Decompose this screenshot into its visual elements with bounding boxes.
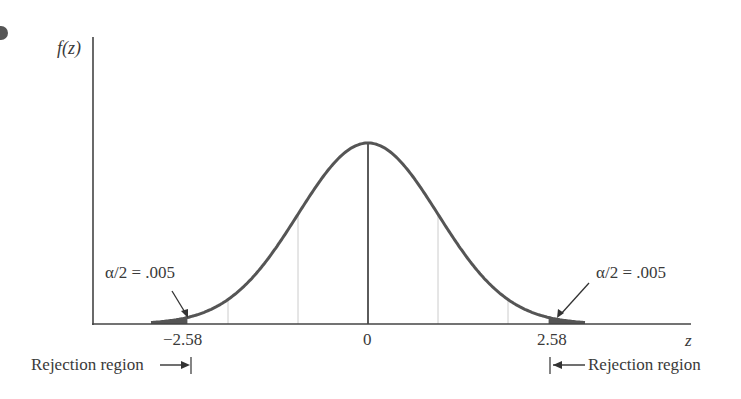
y-axis-label: f(z) [57, 38, 81, 59]
tick-label-neg-2-58: −2.58 [163, 330, 202, 350]
arrowhead-left-annotation [181, 309, 188, 318]
rejection-region-right-label: Rejection region [588, 355, 701, 375]
rejection-region-left-label: Rejection region [31, 355, 144, 375]
tick-label-0: 0 [363, 330, 372, 350]
arrowhead-right-annotation [557, 309, 564, 318]
rejection-right-arrowhead [553, 361, 562, 369]
alpha-annotation-right: α/2 = .005 [596, 263, 666, 283]
arrow-right-annotation [561, 283, 589, 314]
rejection-left-arrowhead [181, 361, 190, 369]
x-axis-label: z [685, 331, 692, 351]
tick-label-2-58: 2.58 [537, 330, 567, 350]
alpha-annotation-left: α/2 = .005 [105, 263, 175, 283]
